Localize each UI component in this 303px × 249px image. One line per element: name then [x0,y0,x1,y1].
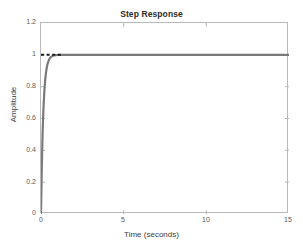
y-tick-label-0.6: 0.6 [8,114,36,121]
y-axis-label: Amplitude [9,70,18,140]
x-axis-label: Time (seconds) [0,230,303,239]
step-response-curve [41,55,289,214]
y-tick-label-1: 1 [8,50,36,57]
x-tick-label-0: 0 [26,216,56,223]
tick-marks [41,23,289,214]
y-tick-label-1.2: 1.2 [8,18,36,25]
y-tick-label-0: 0 [8,209,36,216]
y-tick-label-0.4: 0.4 [8,146,36,153]
y-tick-label-0.8: 0.8 [8,82,36,89]
x-tick-label-15: 15 [273,216,303,223]
plot-svg [41,23,289,214]
chart-title: Step Response [0,9,303,19]
plot-area [40,22,288,213]
y-tick-label-0.2: 0.2 [8,178,36,185]
x-tick-label-10: 10 [191,216,221,223]
x-tick-label-5: 5 [108,216,138,223]
figure-canvas: Step Response Amplitude 1.2 1 0.8 0.6 0.… [0,0,303,249]
